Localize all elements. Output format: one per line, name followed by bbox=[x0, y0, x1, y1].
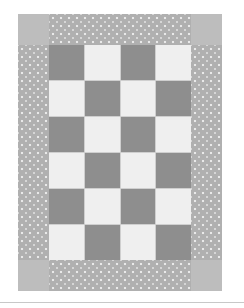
square bbox=[49, 117, 84, 152]
square bbox=[49, 225, 84, 260]
square bbox=[156, 153, 191, 188]
divider-line bbox=[0, 302, 244, 303]
square bbox=[121, 189, 156, 224]
square bbox=[85, 225, 120, 260]
checkerboard-grid bbox=[49, 45, 191, 260]
square bbox=[85, 153, 120, 188]
square bbox=[156, 81, 191, 116]
corner-top-right bbox=[191, 14, 222, 45]
square bbox=[85, 189, 120, 224]
square bbox=[121, 45, 156, 80]
square bbox=[85, 45, 120, 80]
square bbox=[49, 81, 84, 116]
square bbox=[85, 117, 120, 152]
corner-bottom-left bbox=[18, 260, 49, 291]
square bbox=[156, 189, 191, 224]
border-left bbox=[18, 45, 49, 260]
square bbox=[49, 153, 84, 188]
square bbox=[156, 225, 191, 260]
square bbox=[85, 81, 120, 116]
corner-top-left bbox=[18, 14, 49, 45]
border-right bbox=[191, 45, 222, 260]
square bbox=[49, 45, 84, 80]
square bbox=[49, 189, 84, 224]
quilt bbox=[18, 14, 222, 291]
square bbox=[156, 45, 191, 80]
square bbox=[121, 225, 156, 260]
square bbox=[121, 153, 156, 188]
square bbox=[121, 117, 156, 152]
border-bottom bbox=[49, 260, 191, 291]
corner-bottom-right bbox=[191, 260, 222, 291]
border-top bbox=[49, 14, 191, 45]
square bbox=[156, 117, 191, 152]
square bbox=[121, 81, 156, 116]
